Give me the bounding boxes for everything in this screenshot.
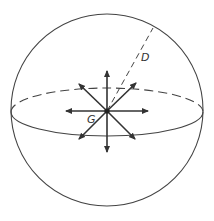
arrow-up-right: [107, 83, 136, 111]
label-g: G: [87, 113, 96, 126]
arrow-down-right: [107, 111, 135, 139]
center-point: [104, 108, 109, 113]
sphere-diagram: G D: [0, 0, 214, 221]
radius-line-dashed: [107, 28, 153, 111]
label-d: D: [141, 51, 149, 64]
